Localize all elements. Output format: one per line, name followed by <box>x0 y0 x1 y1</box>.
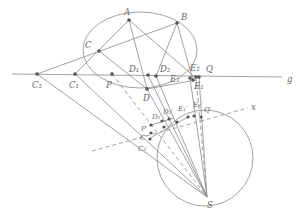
line-A-D <box>129 20 147 89</box>
point-mid2 <box>175 120 178 123</box>
label-C: C <box>85 40 92 50</box>
label-D2: D₂ <box>159 64 171 74</box>
label-Qp: Q′ <box>204 106 212 114</box>
line-Q-S <box>199 77 207 197</box>
point-E2p <box>192 114 195 117</box>
line-C2-B <box>37 23 177 74</box>
point-Q <box>197 75 201 79</box>
label-g: g <box>287 74 293 84</box>
geometry-diagram: A B C D D₁ D₂ E₁ E₂ Q E₁ g C₂ C₁ P x P′ … <box>0 0 300 219</box>
label-D2p: D₂′ <box>162 108 173 116</box>
point-D2 <box>154 74 158 78</box>
label-B: B <box>180 12 187 22</box>
label-D1: D₁ <box>128 64 139 74</box>
label-E1p: E₁′ <box>177 105 188 113</box>
line-P-S <box>112 74 207 197</box>
point-C <box>97 49 101 53</box>
point-Qp <box>199 115 202 118</box>
label-E1-lower: E₁ <box>193 81 204 91</box>
label-x: x <box>251 102 256 112</box>
line-E2-S <box>196 77 207 197</box>
point-E1 <box>188 76 192 80</box>
point-A <box>127 18 131 22</box>
point-E1p <box>186 115 189 118</box>
label-Pp: P′ <box>140 125 148 133</box>
point-C1 <box>73 72 77 76</box>
label-E2p: E₂′ <box>192 101 203 109</box>
point-mid1 <box>162 125 165 128</box>
point-D2p <box>167 117 170 120</box>
label-Cp: C′ <box>140 134 147 142</box>
point-B <box>175 21 179 25</box>
point-Cp <box>149 131 152 134</box>
point-D <box>145 87 149 91</box>
label-E1: E₁ <box>169 74 180 84</box>
label-S: S <box>207 200 213 210</box>
label-C2p: C₂′ <box>138 145 148 153</box>
label-A: A <box>123 7 130 17</box>
label-Q: Q <box>206 64 213 74</box>
point-C2 <box>35 72 39 76</box>
point-Pp <box>149 123 152 126</box>
label-P: P <box>105 80 112 90</box>
point-C2p <box>148 137 151 140</box>
label-D: D <box>142 93 150 103</box>
label-E2: E₂ <box>189 63 200 73</box>
point-D1 <box>146 73 150 77</box>
label-D1p: D₁′ <box>151 113 162 121</box>
point-P <box>110 72 114 76</box>
label-C1: C₁ <box>69 80 79 90</box>
label-C2: C₂ <box>32 80 43 90</box>
